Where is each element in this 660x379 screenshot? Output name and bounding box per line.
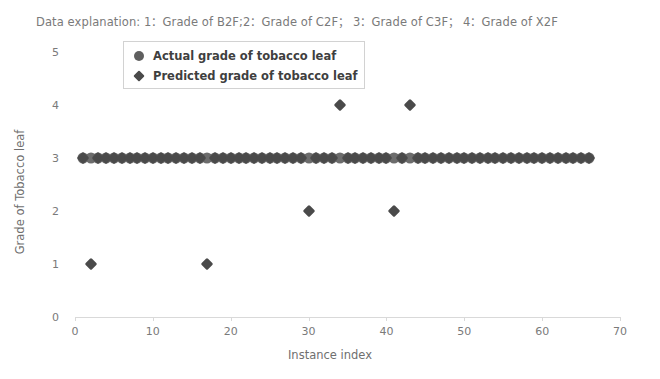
chart-title: Data explanation: 1：Grade of B2F;2：Grade… xyxy=(36,13,558,29)
y-tick-label: 0 xyxy=(52,311,59,324)
y-tick-label: 3 xyxy=(52,152,59,165)
data-point-diamond xyxy=(201,258,214,271)
x-tick-label: 20 xyxy=(224,325,238,338)
x-tick-label: 60 xyxy=(535,325,549,338)
x-axis-line xyxy=(75,317,620,318)
circle-marker-icon xyxy=(134,51,144,61)
x-tick xyxy=(620,317,621,321)
x-tick xyxy=(542,317,543,321)
y-axis-label: Grade of Tobacco leaf xyxy=(13,92,27,292)
x-tick-label: 40 xyxy=(379,325,393,338)
data-point-diamond xyxy=(403,99,416,112)
legend-item-actual: Actual grade of tobacco leaf xyxy=(134,47,336,65)
legend-item-predicted: Predicted grade of tobacco leaf xyxy=(134,67,357,85)
x-tick-label: 30 xyxy=(302,325,316,338)
legend-label-predicted: Predicted grade of tobacco leaf xyxy=(153,69,357,83)
y-tick-label: 4 xyxy=(52,99,59,112)
data-point-diamond xyxy=(388,205,401,218)
x-tick-label: 0 xyxy=(72,325,79,338)
y-tick-label: 5 xyxy=(52,46,59,59)
diamond-marker-icon xyxy=(133,70,144,81)
data-point-diamond xyxy=(302,205,315,218)
chart-legend: Actual grade of tobacco leaf Predicted g… xyxy=(123,41,365,89)
data-point-diamond xyxy=(84,258,97,271)
x-tick xyxy=(231,317,232,321)
y-tick-label: 1 xyxy=(52,258,59,271)
scatter-chart: Data explanation: 1：Grade of B2F;2：Grade… xyxy=(0,0,660,379)
x-tick xyxy=(386,317,387,321)
x-tick-label: 50 xyxy=(457,325,471,338)
y-tick-label: 2 xyxy=(52,205,59,218)
x-axis-label: Instance index xyxy=(0,348,660,362)
x-tick xyxy=(75,317,76,321)
x-tick xyxy=(464,317,465,321)
legend-label-actual: Actual grade of tobacco leaf xyxy=(153,49,336,63)
data-point-diamond xyxy=(333,99,346,112)
x-tick xyxy=(309,317,310,321)
x-tick-label: 70 xyxy=(613,325,627,338)
x-tick-label: 10 xyxy=(146,325,160,338)
x-tick xyxy=(153,317,154,321)
